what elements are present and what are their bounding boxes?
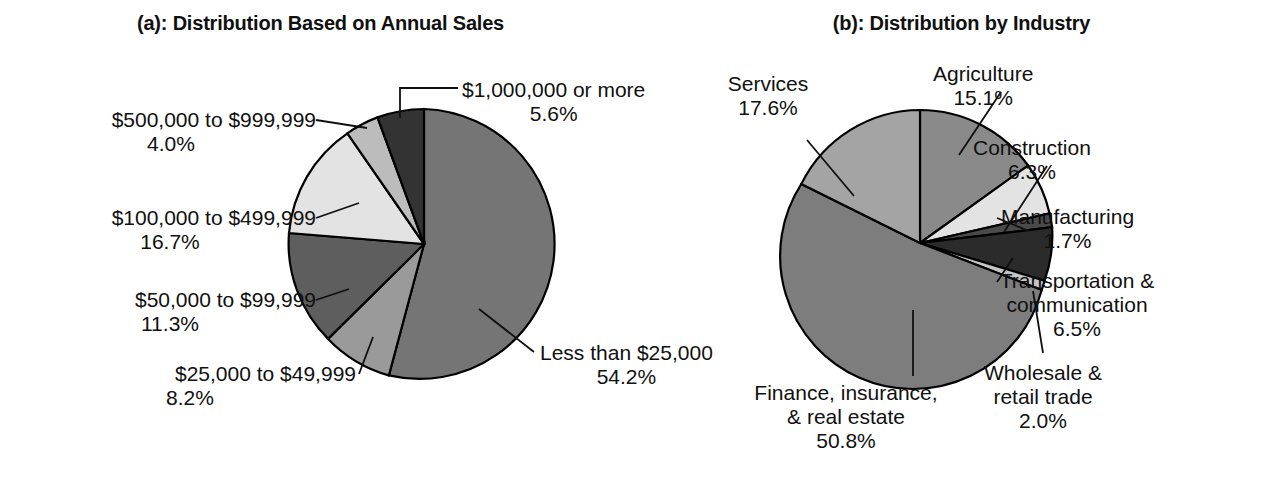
label-50000-99999-pct: 11.3% (24, 312, 316, 336)
label-construction-name: Construction (973, 136, 1091, 159)
label-100000-499999: $100,000 to $499,999 16.7% (24, 206, 316, 254)
pie-a-slices (289, 109, 555, 379)
label-finance-name-line1: Finance, insurance, (754, 381, 937, 404)
label-construction: Construction 6.3% (973, 136, 1091, 184)
label-100000-499999-name: $100,000 to $499,999 (112, 206, 316, 229)
leader-line-500000-999999 (316, 120, 367, 128)
label-25000-49999-name: $25,000 to $49,999 (175, 362, 356, 385)
label-finance-insurance-real-estate: Finance, insurance, & real estate 50.8% (701, 381, 991, 453)
label-500000-999999: $500,000 to $999,999 4.0% (26, 108, 316, 156)
label-transportation-communication: Transportation & communication 6.5% (959, 269, 1195, 341)
label-wholesale-name-line1: Wholesale & (984, 361, 1102, 384)
label-1000000-or-more: $1,000,000 or more 5.6% (462, 78, 645, 126)
label-manufacturing-pct: 1.7% (1001, 229, 1134, 253)
label-transportation-name-line2: communication (959, 293, 1195, 317)
label-25000-49999-pct: 8.2% (24, 386, 356, 410)
label-1000000-or-more-pct: 5.6% (462, 102, 645, 126)
label-25000-49999: $25,000 to $49,999 8.2% (24, 362, 356, 410)
label-manufacturing-name: Manufacturing (1001, 205, 1134, 228)
label-agriculture-name: Agriculture (933, 62, 1033, 85)
label-500000-999999-pct: 4.0% (26, 132, 316, 156)
label-agriculture-pct: 15.1% (933, 86, 1033, 110)
panel-a-annual-sales: (a): Distribution Based on Annual Sales (0, 0, 641, 496)
label-50000-99999: $50,000 to $99,999 11.3% (24, 288, 316, 336)
label-50000-99999-name: $50,000 to $99,999 (135, 288, 316, 311)
label-500000-999999-name: $500,000 to $999,999 (112, 108, 316, 131)
label-services-pct: 17.6% (702, 96, 834, 120)
label-1000000-or-more-name: $1,000,000 or more (462, 78, 645, 101)
label-services-name: Services (728, 72, 809, 95)
label-finance-name-line2: & real estate (701, 405, 991, 429)
label-agriculture: Agriculture 15.1% (933, 62, 1033, 110)
label-transportation-name-line1: Transportation & (1000, 269, 1154, 292)
label-100000-499999-pct: 16.7% (24, 230, 316, 254)
label-services: Services 17.6% (702, 72, 834, 120)
label-transportation-pct: 6.5% (959, 317, 1195, 341)
panel-b-industry: (b): Distribution by Industry (641, 0, 1282, 496)
label-construction-pct: 6.3% (973, 160, 1091, 184)
label-finance-pct: 50.8% (701, 429, 991, 453)
figure-two-pie-charts: (a): Distribution Based on Annual Sales (0, 0, 1282, 496)
label-manufacturing: Manufacturing 1.7% (1001, 205, 1134, 253)
